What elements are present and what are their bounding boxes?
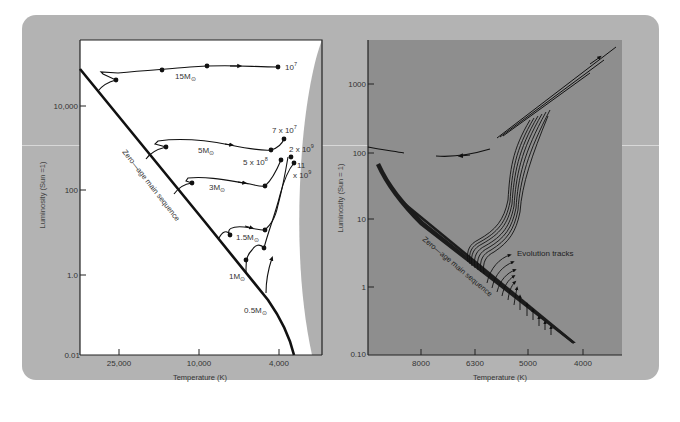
right-ytick-1000: 1000 [348, 80, 366, 89]
right-xtick-6300: 6300 [466, 359, 484, 368]
age-label-2e9: 2 x 109 [289, 143, 314, 154]
left-y-axis-label: Luminosity (Sun =1) [38, 161, 47, 228]
right-ytick-1: 1 [362, 283, 367, 292]
figure-caption-clipped: ▬▬▬ ▬▬▬▬ ▬▬▬▬ [26, 416, 165, 422]
right-xtick-4000: 4000 [574, 359, 592, 368]
figure-svg: 10,000 100 1.0 0.01 25,000 10,000 4,000 … [0, 0, 680, 422]
left-ytick-001: 0.01 [64, 351, 80, 360]
right-ytick-10: 10 [357, 215, 366, 224]
left-xtick-4000: 4,000 [269, 359, 290, 368]
left-chart: 10,000 100 1.0 0.01 25,000 10,000 4,000 … [38, 40, 322, 382]
right-x-axis-label: Temperature (K) [473, 373, 528, 382]
left-ytick-1: 1.0 [67, 271, 79, 280]
right-chart: 1000 100 10 1 0.10 8000 6300 5000 4000 T… [336, 40, 622, 382]
age-label-11e9: 11 [297, 161, 306, 170]
evolution-tracks-label: Evolution tracks [517, 249, 573, 258]
left-xtick-25000: 25,000 [107, 359, 132, 368]
left-ytick-100: 100 [65, 186, 79, 195]
right-plot-area [368, 40, 622, 355]
left-xtick-10000: 10,000 [187, 359, 212, 368]
right-ytick-100: 100 [353, 149, 367, 158]
left-ytick-10000: 10,000 [54, 102, 79, 111]
right-xtick-8000: 8000 [412, 359, 430, 368]
right-xtick-5000: 5000 [519, 359, 537, 368]
right-y-axis-label: Luminosity (Sun = 1) [336, 163, 345, 232]
age-label-5e8: 5 x 108 [243, 156, 268, 167]
left-plot-area [80, 40, 322, 355]
left-x-axis-label: Temperature (K) [173, 373, 228, 382]
right-ytick-010: 0.10 [350, 350, 366, 359]
age-label-7e7: 7 x 107 [272, 124, 297, 135]
